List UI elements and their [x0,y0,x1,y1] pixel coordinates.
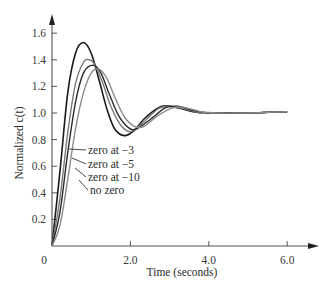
legend-label-zero-at-10: zero at −10 [88,171,140,183]
y-ticks: 0.20.40.60.81.01.21.41.6 [32,27,57,225]
y-tick-label: 1.0 [32,107,47,119]
legend-label-zero-at-5: zero at −5 [88,158,134,170]
step-response-chart: 0.20.40.60.81.01.21.41.6 2.04.06.0 0 Tim… [0,0,333,291]
leader-line-no-zero [79,180,88,190]
legend-label-zero-at-3: zero at −3 [88,144,134,156]
y-tick-label: 1.6 [32,27,47,39]
legend-annotations: zero at −3 zero at −5 zero at −10 no zer… [69,144,140,196]
y-tick-label: 0.6 [32,160,47,172]
x-tick-label: 6.0 [280,254,295,266]
y-tick-label: 0.4 [32,187,47,199]
y-tick-label: 0.2 [32,213,47,225]
x-ticks: 2.04.06.0 [123,241,294,266]
y-axis-arrow-icon [49,14,55,25]
leader-line-zero-at-10 [75,168,86,177]
y-tick-label: 1.4 [32,54,47,66]
origin-label: 0 [41,254,47,266]
x-tick-label: 4.0 [202,254,217,266]
x-axis-arrow-icon [308,243,319,249]
y-axis-title-text: Normalized c(t) [13,106,26,179]
y-tick-label: 1.2 [32,80,47,92]
x-tick-label: 2.0 [123,254,138,266]
y-tick-label: 0.8 [32,134,47,146]
leader-line-zero-at-5 [72,158,86,164]
x-axis-title: Time (seconds) [147,266,218,279]
legend-label-no-zero: no zero [90,184,124,196]
y-axis-title: Normalized c(t) [13,106,26,179]
